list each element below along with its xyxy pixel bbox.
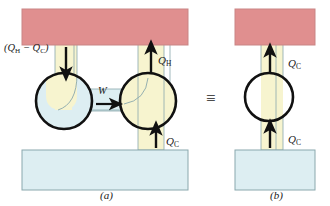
panel-a-net-work-label: (QH − QC) [4, 43, 48, 54]
panel-b-hot-reservoir [235, 9, 315, 45]
panel-b-qc-top-label: QC [288, 58, 301, 69]
panel-a-hot-reservoir [22, 9, 188, 45]
panel-a-cold-reservoir [22, 150, 188, 190]
figure-canvas [0, 0, 330, 206]
panel-b-cold-reservoir [235, 150, 315, 190]
panel-b-caption: (b) [270, 190, 283, 201]
panel-a-right-device [120, 73, 176, 129]
equivalence-symbol: ≡ [206, 90, 216, 107]
thermodynamics-figure: (QH − QC) W QH QC (a) ≡ QC QC (b) [0, 0, 330, 206]
panel-b-device [245, 73, 293, 121]
panel-a-qh-label: QH [158, 55, 171, 66]
panel-a-work-label: W [98, 86, 107, 97]
panel-a-caption: (a) [100, 190, 113, 201]
panel-b-qc-bottom-label: QC [288, 134, 301, 145]
panel-a-qc-label: QC [166, 136, 179, 147]
